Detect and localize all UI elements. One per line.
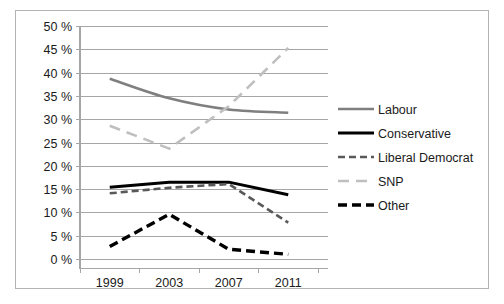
legend-label-conservative: Conservative: [378, 127, 451, 141]
y-axis-tick-label: 40 %: [44, 67, 73, 81]
chart-legend: LabourConservativeLiberal DemocratSNPOth…: [338, 103, 474, 213]
x-axis-tick-label: 2007: [215, 276, 243, 290]
legend-label-liberal-democrat: Liberal Democrat: [378, 151, 474, 165]
y-axis-tick-label: 25 %: [44, 137, 73, 151]
data-series-group: [110, 48, 289, 254]
y-axis-tick-label: 10 %: [44, 206, 73, 220]
series-line-conservative: [110, 182, 289, 195]
x-axis-tick-labels: 1999200320072011: [96, 276, 302, 290]
y-axis-tick-label: 30 %: [44, 113, 73, 127]
y-axis-tick-label: 50 %: [44, 20, 73, 34]
series-line-other: [110, 214, 289, 254]
y-axis-tick-label: 35 %: [44, 90, 73, 104]
y-axis-tick-label: 5 %: [50, 230, 72, 244]
x-axis-tick-label: 1999: [96, 276, 124, 290]
y-axis-tick-label: 45 %: [44, 43, 73, 57]
x-axis-tick-label: 2011: [275, 276, 302, 290]
x-axis: [80, 269, 328, 273]
y-axis: [76, 27, 80, 269]
y-axis-tick-label: 0 %: [50, 253, 72, 267]
chart-container: 50 %45 %40 %35 %30 %25 %20 %15 %10 %5 %0…: [0, 0, 504, 304]
series-line-snp: [110, 48, 289, 149]
x-axis-tick-label: 2003: [155, 276, 183, 290]
gridlines: [80, 27, 328, 260]
y-axis-tick-label: 15 %: [44, 183, 73, 197]
legend-label-other: Other: [378, 199, 409, 213]
y-axis-tick-label: 20 %: [44, 160, 73, 174]
y-axis-tick-labels: 50 %45 %40 %35 %30 %25 %20 %15 %10 %5 %0…: [44, 20, 73, 267]
legend-label-snp: SNP: [378, 175, 404, 189]
line-chart: 50 %45 %40 %35 %30 %25 %20 %15 %10 %5 %0…: [0, 0, 504, 304]
series-line-labour: [110, 79, 289, 113]
legend-label-labour: Labour: [378, 103, 417, 117]
